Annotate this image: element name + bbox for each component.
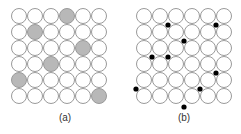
panel-a-label: (a)	[50, 112, 80, 123]
lattice-atom	[44, 25, 59, 40]
lattice-atom	[153, 57, 168, 72]
shaded-atom	[60, 9, 75, 24]
lattice-atom	[92, 57, 107, 72]
lattice-atom	[60, 57, 75, 72]
interstitial-dot	[197, 86, 202, 91]
lattice-atom	[28, 73, 43, 88]
lattice-atom	[60, 73, 75, 88]
lattice-atom	[201, 89, 216, 104]
interstitial-dot	[213, 22, 218, 27]
lattice-atom	[12, 41, 27, 56]
lattice-diagram	[0, 0, 241, 134]
lattice-atom	[92, 73, 107, 88]
lattice-atom	[76, 25, 91, 40]
interstitial-dot	[181, 38, 186, 43]
lattice-atom	[76, 9, 91, 24]
lattice-atom	[169, 57, 184, 72]
lattice-atom	[185, 25, 200, 40]
lattice-atom	[201, 41, 216, 56]
lattice-atom	[169, 73, 184, 88]
lattice-atom	[12, 89, 27, 104]
lattice-atom	[137, 57, 152, 72]
lattice-atom	[201, 9, 216, 24]
interstitial-dot	[165, 54, 170, 59]
lattice-atom	[169, 41, 184, 56]
lattice-atom	[185, 41, 200, 56]
lattice-atom	[92, 41, 107, 56]
lattice-atom	[153, 41, 168, 56]
lattice-atom	[169, 89, 184, 104]
panel-a-grid	[12, 9, 107, 104]
lattice-atom	[185, 73, 200, 88]
lattice-atom	[153, 9, 168, 24]
lattice-atom	[201, 57, 216, 72]
lattice-atom	[92, 9, 107, 24]
lattice-atom	[12, 9, 27, 24]
shaded-atom	[44, 57, 59, 72]
interstitial-dot	[133, 86, 138, 91]
lattice-atom	[28, 9, 43, 24]
lattice-atom	[217, 57, 232, 72]
lattice-atom	[153, 25, 168, 40]
lattice-atom	[217, 89, 232, 104]
lattice-atom	[44, 41, 59, 56]
lattice-atom	[137, 41, 152, 56]
lattice-atom	[137, 89, 152, 104]
lattice-atom	[44, 9, 59, 24]
panel-b-label: (b)	[169, 112, 199, 123]
lattice-atom	[217, 9, 232, 24]
lattice-atom	[76, 89, 91, 104]
interstitial-dot	[149, 54, 154, 59]
lattice-atom	[169, 25, 184, 40]
lattice-atom	[12, 25, 27, 40]
panel-b-grid	[133, 9, 231, 110]
lattice-atom	[60, 25, 75, 40]
lattice-atom	[217, 25, 232, 40]
lattice-atom	[12, 57, 27, 72]
lattice-atom	[185, 9, 200, 24]
lattice-atom	[60, 89, 75, 104]
lattice-atom	[169, 9, 184, 24]
lattice-atom	[28, 57, 43, 72]
lattice-atom	[44, 89, 59, 104]
shaded-atom	[28, 25, 43, 40]
lattice-atom	[76, 73, 91, 88]
lattice-atom	[217, 73, 232, 88]
lattice-atom	[28, 41, 43, 56]
lattice-atom	[44, 73, 59, 88]
lattice-atom	[28, 89, 43, 104]
lattice-atom	[60, 41, 75, 56]
lattice-atom	[76, 57, 91, 72]
lattice-atom	[137, 25, 152, 40]
lattice-atom	[153, 73, 168, 88]
lattice-atom	[137, 9, 152, 24]
shaded-atom	[92, 89, 107, 104]
interstitial-dot	[213, 70, 218, 75]
shaded-atom	[12, 73, 27, 88]
lattice-atom	[217, 41, 232, 56]
shaded-atom	[76, 41, 91, 56]
lattice-atom	[201, 25, 216, 40]
lattice-atom	[92, 25, 107, 40]
interstitial-dot	[181, 104, 186, 109]
lattice-atom	[201, 73, 216, 88]
lattice-atom	[137, 73, 152, 88]
lattice-atom	[153, 89, 168, 104]
interstitial-dot	[165, 22, 170, 27]
lattice-atom	[185, 89, 200, 104]
lattice-atom	[185, 57, 200, 72]
